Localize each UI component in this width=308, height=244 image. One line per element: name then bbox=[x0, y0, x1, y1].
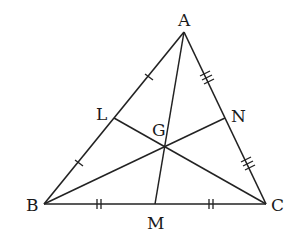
vertex-label-a: A bbox=[177, 10, 191, 30]
vertex-label-c: C bbox=[271, 195, 284, 215]
median-bn bbox=[44, 118, 225, 204]
vertex-label-b: B bbox=[26, 195, 39, 215]
midpoint-label-l: L bbox=[96, 104, 107, 124]
tick-marks-ac bbox=[200, 71, 255, 170]
triangle-diagram: A B C L M N G bbox=[0, 0, 308, 244]
median-am bbox=[155, 32, 184, 204]
midpoint-label-m: M bbox=[147, 213, 164, 233]
midpoint-label-n: N bbox=[231, 106, 246, 126]
centroid-label-g: G bbox=[152, 120, 166, 140]
